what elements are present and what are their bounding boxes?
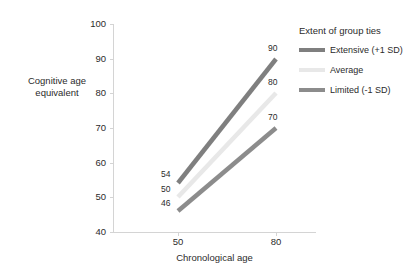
legend-swatch-icon-extensive [299,48,325,52]
legend-label-average: Average [330,65,363,75]
legend-title: Extent of group ties [299,25,417,36]
series-line-average [178,93,276,197]
legend-label-limited: Limited (-1 SD) [330,85,391,95]
line-chart: Cognitive age equivalent 40 50 60 70 80 … [0,0,418,277]
data-label-average-left: 50 [161,184,170,194]
data-label-average-right: 80 [268,77,277,87]
legend-item-average[interactable]: Average [299,64,417,75]
legend-item-limited[interactable]: Limited (-1 SD) [299,84,417,95]
data-label-limited-right: 70 [268,112,277,122]
data-label-extensive-left: 54 [161,169,170,179]
legend-label-extensive: Extensive (+1 SD) [330,45,403,55]
data-label-limited-left: 46 [161,198,170,208]
legend-swatch-icon-average [299,68,325,72]
legend-swatch-icon-limited [299,88,325,92]
legend-item-extensive[interactable]: Extensive (+1 SD) [299,44,417,55]
data-label-extensive-right: 90 [268,43,277,53]
series-line-extensive [178,59,276,183]
series-line-limited [178,128,276,211]
legend: Extent of group ties Extensive (+1 SD) A… [299,25,417,104]
